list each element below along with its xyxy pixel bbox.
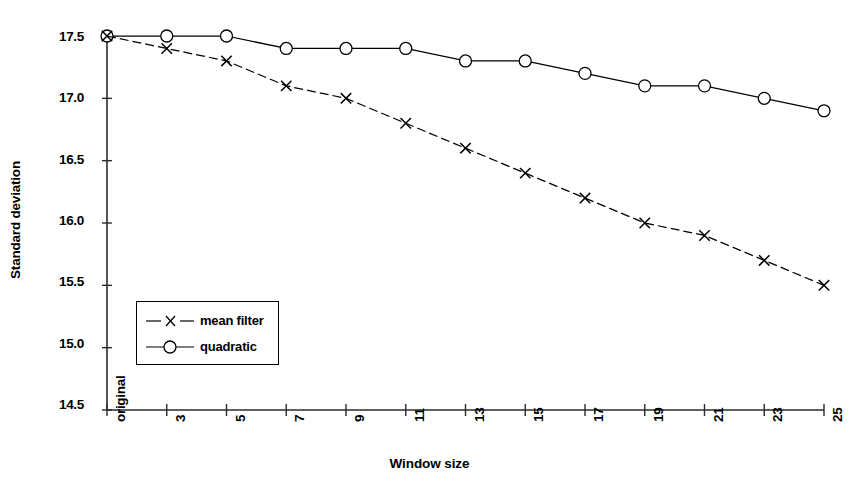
legend-label-quadratic: quadratic: [200, 334, 257, 360]
plot-area: [0, 0, 859, 504]
x-tick-label-19: 19: [651, 408, 666, 422]
chart-legend: mean filter quadratic: [136, 301, 279, 365]
legend-item-mean-filter: mean filter: [137, 308, 280, 334]
x-tick-label-5: 5: [233, 415, 248, 422]
x-tick-label-original: original: [113, 376, 128, 422]
x-tick-label-25: 25: [830, 408, 845, 422]
x-tick-label-17: 17: [591, 408, 606, 422]
x-tick-label-13: 13: [472, 408, 487, 422]
x-tick-label-15: 15: [531, 408, 546, 422]
x-tick-label-3: 3: [173, 415, 188, 422]
x-tick-label-7: 7: [292, 415, 307, 422]
chart-figure: Standard deviation 17.5 17.0 16.5 16.0 1…: [0, 0, 859, 504]
legend-label-mean-filter: mean filter: [200, 308, 264, 334]
x-tick-label-21: 21: [711, 408, 726, 422]
x-axis-title: Window size: [0, 456, 859, 471]
series-mean-filter: [102, 31, 829, 291]
circle-marker-icon: [144, 334, 196, 360]
x-tick-label-11: 11: [412, 408, 427, 422]
legend-item-quadratic: quadratic: [137, 334, 280, 360]
x-marker-icon: [144, 308, 196, 334]
series-quadratic: [101, 30, 830, 117]
x-tick-label-23: 23: [770, 408, 785, 422]
x-tick-label-9: 9: [352, 415, 367, 422]
